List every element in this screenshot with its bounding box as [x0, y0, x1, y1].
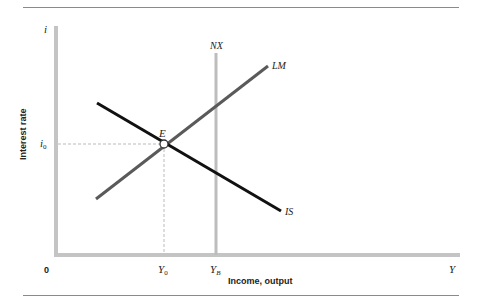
- x-axis-symbol: Y: [449, 263, 455, 275]
- equilibrium-label: E: [159, 127, 166, 139]
- i0-label: i0: [40, 137, 47, 151]
- nx-label: NX: [210, 40, 223, 51]
- equilibrium-point: [160, 140, 168, 148]
- y0-label-sub: 0: [164, 269, 168, 277]
- y-axis-symbol: i: [44, 23, 47, 35]
- lm-curve: [96, 66, 268, 199]
- x-axis-label: Income, output: [228, 276, 293, 286]
- y-axis-label: Interest rate: [18, 108, 28, 160]
- yb-label: YB: [210, 263, 220, 277]
- i0-label-sub: 0: [43, 143, 47, 151]
- is-label: IS: [285, 206, 293, 217]
- lm-label: LM: [272, 60, 286, 71]
- diagram-canvas: [0, 0, 478, 299]
- yb-label-sub: B: [216, 269, 220, 277]
- origin-label: 0: [44, 265, 49, 275]
- is-curve: [97, 103, 281, 211]
- y0-label: Y0: [158, 263, 168, 277]
